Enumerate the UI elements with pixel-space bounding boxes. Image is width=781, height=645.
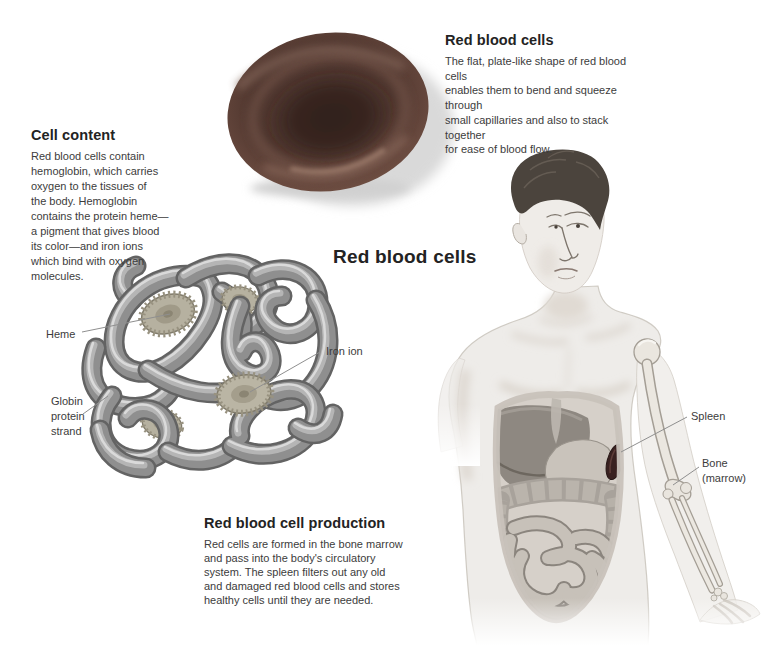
callout-rbc-shape-body: The flat, plate-like shape of red blood … xyxy=(445,54,641,157)
callout-cell-content: Cell content Red blood cells contain hem… xyxy=(31,127,196,284)
human-figure-illustration xyxy=(428,150,781,645)
callout-cell-content-body: Red blood cells contain hemoglobin, whic… xyxy=(31,149,196,284)
red-blood-cell-illustration xyxy=(216,18,454,206)
callout-rbc-shape: Red blood cells The flat, plate-like sha… xyxy=(445,32,641,157)
callout-production-heading: Red blood cell production xyxy=(204,515,404,531)
iron-ion-heme-disc xyxy=(215,371,274,416)
callout-production: Red blood cell production Red cells are … xyxy=(204,515,404,607)
callout-production-body: Red cells are formed in the bone marrow … xyxy=(204,537,404,607)
encyclopedia-page: Red blood cells The flat, plate-like sha… xyxy=(0,0,781,645)
label-globin-protein-strand: Globin protein strand xyxy=(51,394,85,439)
callout-cell-content-heading: Cell content xyxy=(31,127,196,143)
label-iron-ion: Iron ion xyxy=(326,344,363,359)
page-title: Red blood cells xyxy=(333,246,476,268)
label-bone-marrow: Bone (marrow) xyxy=(702,456,746,486)
hemoglobin-molecule-illustration xyxy=(89,259,333,468)
label-spleen: Spleen xyxy=(691,409,725,424)
label-heme: Heme xyxy=(46,327,75,342)
callout-rbc-shape-heading: Red blood cells xyxy=(445,32,641,48)
